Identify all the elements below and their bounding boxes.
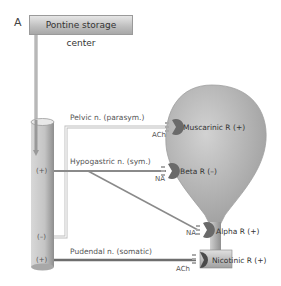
nicotinic-receptor-label: Nicotinic R (+) (212, 256, 267, 265)
pudendal-transmitter-label: ACh (176, 265, 190, 274)
hypogastric-nerve-path (54, 171, 198, 230)
alpha-receptor-label: Alpha R (+) (216, 227, 259, 236)
pelvic-nerve-label: Pelvic n. (parasym.) (70, 113, 144, 122)
spinal-cord (31, 119, 54, 271)
hypogastric-marker: (+) (36, 167, 47, 176)
hypogastric-transmitter-label: NA (155, 175, 165, 184)
pudendal-nerve-label: Pudendal n. (somatic) (70, 247, 152, 256)
alpha-receptor-icon (196, 222, 215, 238)
muscarinic-receptor-label: Muscarinic R (+) (183, 123, 245, 132)
pelvic-transmitter-label: ACh (152, 131, 166, 140)
hypogastric-nerve-label: Hypogastric n. (sym.) (70, 157, 151, 166)
pelvic-nerve-path (54, 127, 168, 237)
beta-receptor-label: Beta R (–) (180, 167, 217, 176)
pelvic-marker: (–) (37, 233, 46, 242)
alpha-transmitter-label: NA (186, 229, 196, 238)
pudendal-marker: (+) (36, 256, 47, 265)
diagram-graphics (0, 0, 281, 286)
